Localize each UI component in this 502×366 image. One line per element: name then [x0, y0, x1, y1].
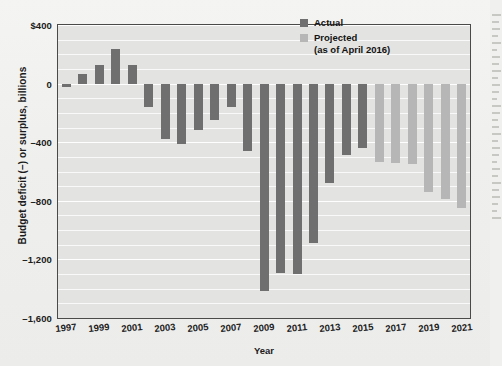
bar-2021: [457, 84, 466, 209]
page-text-line: [492, 56, 500, 58]
x-tick-label: 2021: [451, 321, 473, 334]
bar-2011: [293, 84, 302, 275]
page-text-line: [492, 189, 499, 191]
y-tick-label: $400: [30, 20, 52, 31]
bar-2005: [194, 84, 203, 131]
page-text-line: [492, 196, 500, 198]
gridline: [58, 25, 470, 26]
x-tick-label: 1999: [88, 321, 110, 334]
y-tick-label: –400: [30, 137, 52, 148]
bar-1997: [62, 84, 71, 87]
page-text-line: [492, 35, 498, 37]
page-text-line: [492, 119, 498, 121]
bar-2004: [177, 84, 186, 145]
x-tick-label: 2003: [154, 321, 176, 334]
page-text-line: [492, 182, 501, 184]
chart-legend: Actual Projected (as of April 2016): [300, 17, 390, 59]
x-tick-label: 2001: [121, 321, 143, 334]
x-tick-label: 2019: [418, 321, 440, 334]
page-text-line: [492, 70, 501, 72]
page-text-line: [492, 63, 499, 65]
page-text-line: [492, 49, 497, 51]
legend-label-projected: Projected: [314, 32, 390, 45]
page-text-line: [492, 161, 497, 163]
bar-2003: [161, 84, 170, 139]
page-text-line: [492, 203, 498, 205]
bar-2020: [441, 84, 450, 200]
bar-2017: [391, 84, 400, 164]
page-text-line: [492, 217, 501, 219]
y-tick-label: –1,600: [22, 313, 52, 324]
page-text-line: [492, 14, 501, 16]
page-text-line: [492, 175, 498, 177]
bar-2010: [276, 84, 285, 274]
legend-item-actual: Actual: [300, 17, 390, 30]
bar-2002: [144, 84, 153, 107]
adjacent-page-text-sliver: [490, 0, 502, 366]
bar-2001: [128, 65, 137, 84]
bar-2019: [424, 84, 433, 192]
page-text-line: [492, 77, 498, 79]
bar-2013: [325, 84, 334, 184]
legend-swatch-actual: [300, 19, 308, 27]
y-axis-label: Budget deficit (–) or surplus, billions: [17, 41, 28, 271]
legend-swatch-projected: [300, 34, 308, 42]
x-tick-label: 2011: [286, 321, 308, 334]
bar-1998: [78, 74, 87, 84]
legend-sublabel-projected: (as of April 2016): [314, 44, 390, 57]
bar-2014: [342, 84, 351, 155]
bar-2007: [227, 84, 236, 108]
plot-area: [58, 25, 470, 318]
y-tick-label: –800: [30, 195, 52, 206]
x-axis-ticks: 1997199920012003200520072009201120132015…: [57, 322, 471, 338]
x-tick-label: 2009: [253, 321, 275, 334]
bar-2000: [111, 49, 120, 84]
page-text-line: [492, 42, 501, 44]
legend-label-actual: Actual: [314, 17, 343, 30]
x-tick-label: 2007: [220, 321, 242, 334]
page-text-line: [492, 105, 501, 107]
bar-2006: [210, 84, 219, 120]
x-tick-label: 2005: [187, 321, 209, 334]
x-tick-label: 1997: [55, 321, 77, 334]
bar-2015: [358, 84, 367, 148]
bar-chart: [57, 24, 471, 319]
bar-2008: [243, 84, 252, 151]
page-text-line: [492, 28, 500, 30]
x-axis-label: Year: [57, 345, 471, 356]
bar-2016: [375, 84, 384, 162]
bar-2018: [408, 84, 417, 164]
page-text-line: [492, 91, 499, 93]
page-text-line: [492, 126, 499, 128]
page-text-line: [492, 147, 500, 149]
page-text-line: [492, 84, 500, 86]
page-text-line: [492, 98, 497, 100]
gridline: [58, 303, 470, 304]
bar-2009: [260, 84, 269, 291]
page-text-line: [492, 140, 498, 142]
page-text-line: [492, 21, 499, 23]
x-tick-label: 2013: [319, 321, 341, 334]
page-text-line: [492, 210, 497, 212]
legend-item-projected: Projected (as of April 2016): [300, 32, 390, 57]
x-tick-label: 2017: [385, 321, 407, 334]
bar-1999: [95, 65, 104, 84]
page-text-line: [492, 154, 499, 156]
x-tick-label: 2015: [352, 321, 374, 334]
y-tick-label: 0: [47, 78, 52, 89]
bar-2012: [309, 84, 318, 243]
page-text-line: [492, 168, 500, 170]
gridline: [58, 40, 470, 41]
page-text-line: [492, 133, 501, 135]
page-text-line: [492, 112, 500, 114]
